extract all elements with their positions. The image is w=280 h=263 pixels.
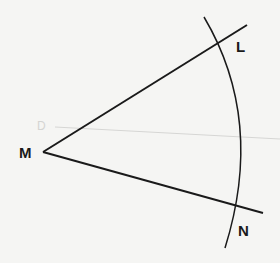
label-m: M <box>19 144 32 161</box>
faint-guide-line <box>55 127 280 139</box>
label-d: D <box>37 119 46 133</box>
label-l: L <box>236 38 245 55</box>
ray-mn <box>43 152 263 213</box>
label-n: N <box>238 222 249 239</box>
ray-ml <box>43 25 247 152</box>
diagram-canvas: D M L N <box>0 0 280 263</box>
